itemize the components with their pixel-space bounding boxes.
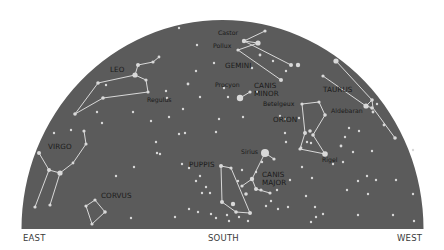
star-dot xyxy=(276,189,278,191)
star-dot xyxy=(296,63,300,67)
star-dot xyxy=(236,48,239,51)
star-dot xyxy=(159,153,161,155)
star-dot xyxy=(346,189,348,191)
star-dot xyxy=(151,60,154,63)
star-dot xyxy=(195,70,197,72)
star-dot xyxy=(165,90,167,92)
star-dot xyxy=(96,111,98,113)
corvus-label: CORVUS xyxy=(101,191,132,200)
star-dot xyxy=(144,78,147,81)
star-dot xyxy=(392,214,394,216)
star-dot xyxy=(84,142,87,145)
star-dot xyxy=(311,133,315,137)
star-dot xyxy=(250,177,254,181)
star-dot xyxy=(248,90,251,93)
star-dot xyxy=(228,220,230,222)
star-dot xyxy=(229,166,232,169)
star-dot xyxy=(261,161,263,163)
star-dot xyxy=(352,151,354,153)
leo-label: LEO xyxy=(110,65,125,74)
star-dot xyxy=(413,220,415,222)
star-dot xyxy=(393,136,397,140)
star-dot xyxy=(136,63,140,67)
aldebaran-label: Aldebaran xyxy=(331,107,363,114)
star-dot xyxy=(321,74,324,77)
star-dot xyxy=(298,117,300,119)
star-dot xyxy=(182,108,184,110)
star-dot xyxy=(219,164,223,168)
star-dot xyxy=(370,98,374,102)
star-dot xyxy=(357,214,359,216)
star-dot xyxy=(199,175,201,177)
star-dot xyxy=(213,62,215,64)
star-dot xyxy=(178,133,180,135)
star-dot xyxy=(315,216,317,218)
star-dot xyxy=(314,206,316,208)
star-dot xyxy=(306,141,308,143)
star-dot xyxy=(259,188,262,191)
sky-map: LEOGEMINICANISMINORTAURUSORIONVIRGOPUPPI… xyxy=(0,0,444,250)
star-dot xyxy=(284,132,286,134)
star-dot xyxy=(367,193,369,195)
star-dot xyxy=(155,141,157,143)
star-dot xyxy=(289,179,291,181)
star-dot xyxy=(310,221,312,223)
star-dot xyxy=(72,162,75,165)
star-dot xyxy=(132,72,137,77)
star-dot xyxy=(248,211,252,215)
star-dot xyxy=(301,166,303,168)
star-dot xyxy=(308,129,312,133)
star-dot xyxy=(270,200,272,202)
star-dot xyxy=(82,129,85,132)
star-dot xyxy=(188,208,190,210)
gemini-label: GEMINI xyxy=(225,61,252,70)
sirius-label: Sirius xyxy=(241,148,258,155)
star-dot xyxy=(96,81,100,85)
star-dot xyxy=(103,210,107,214)
star-dot xyxy=(168,116,170,118)
star-dot xyxy=(237,95,243,101)
star-dot xyxy=(209,192,211,194)
star-dot xyxy=(272,60,274,62)
star-dot xyxy=(90,222,93,225)
pollux-label: Pollux xyxy=(213,42,232,49)
star-dot xyxy=(205,186,207,188)
canis-major-2-label: MAJOR xyxy=(262,178,286,187)
direction-east-label: EAST xyxy=(23,233,46,243)
star-dot xyxy=(197,211,199,213)
star-dot xyxy=(184,132,186,134)
regulus-label: Regulus xyxy=(147,96,172,104)
star-dot xyxy=(277,208,279,210)
star-dot xyxy=(376,103,378,105)
star-dot xyxy=(238,216,240,218)
star-dot xyxy=(311,177,313,179)
star-dot xyxy=(146,90,149,93)
star-dot xyxy=(261,149,269,157)
taurus-label: TAURUS xyxy=(322,85,353,94)
star-dot xyxy=(215,131,217,133)
star-dot xyxy=(371,150,373,152)
star-dot xyxy=(303,131,307,135)
virgo-label: VIRGO xyxy=(48,142,72,151)
star-dot xyxy=(150,120,152,122)
star-dot xyxy=(279,78,283,82)
star-dot xyxy=(240,184,243,187)
star-dot xyxy=(241,169,243,171)
star-dot xyxy=(333,58,338,63)
star-dot xyxy=(47,168,51,172)
star-dot xyxy=(210,213,212,215)
star-dot xyxy=(340,145,343,148)
star-dot xyxy=(285,70,287,72)
star-dot xyxy=(383,124,386,127)
star-dot xyxy=(101,122,103,124)
star-dot xyxy=(310,142,312,144)
star-dot xyxy=(195,180,197,182)
star-dot xyxy=(227,96,229,98)
star-dot xyxy=(158,56,161,59)
star-dot xyxy=(73,112,77,116)
star-dot xyxy=(220,200,224,204)
star-dot xyxy=(196,44,198,46)
star-dot xyxy=(33,205,36,208)
star-dot xyxy=(372,111,375,114)
star-dot xyxy=(247,220,249,222)
